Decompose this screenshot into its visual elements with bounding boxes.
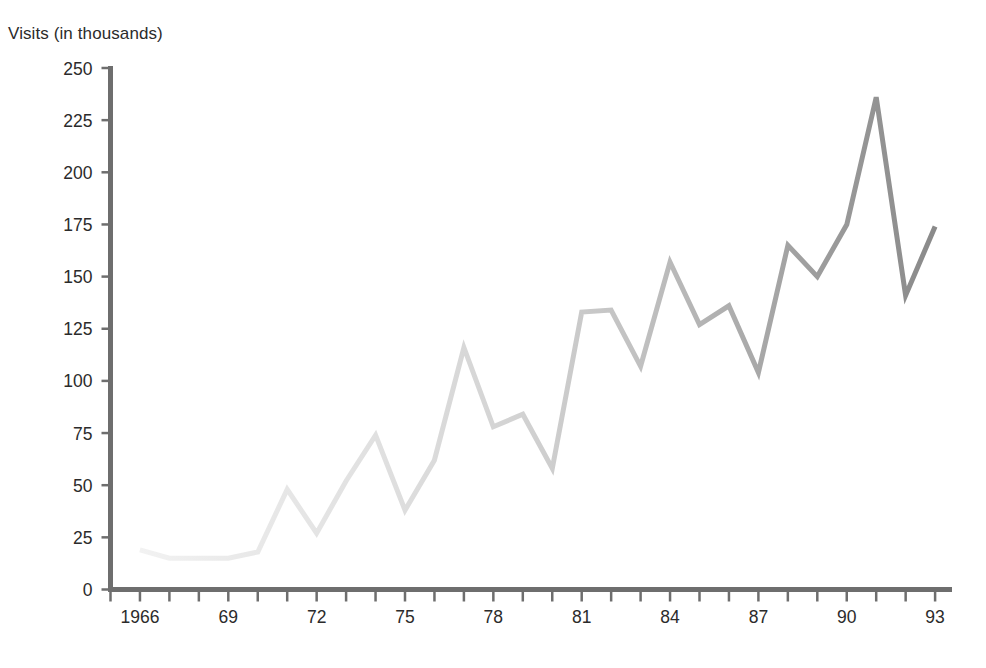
y-axis-tick-label: 25 [73, 528, 92, 548]
y-axis-tick-label: 150 [63, 267, 92, 287]
y-axis-tick-label: 175 [63, 215, 92, 235]
x-axis-ticks [111, 592, 936, 602]
y-axis-tick-label: 225 [63, 111, 92, 131]
y-axis-tick-label: 50 [73, 476, 93, 496]
data-series-line [140, 97, 935, 558]
x-axis-tick-label: 75 [395, 607, 414, 627]
y-axis-tick-label: 0 [83, 580, 93, 600]
line-chart: 0255075100125150175200225250 19666972757… [0, 0, 986, 668]
y-axis-tick-label: 125 [63, 319, 92, 339]
y-axis-tick-label: 200 [63, 163, 92, 183]
x-axis-tick-label: 69 [219, 607, 238, 627]
x-axis-tick-label: 78 [484, 607, 503, 627]
y-axis-tick-label: 100 [63, 371, 92, 391]
chart-container: Visits (in thousands) 025507510012515017… [0, 0, 986, 668]
y-axis-tick-labels: 0255075100125150175200225250 [63, 59, 92, 601]
axes [108, 66, 952, 592]
x-axis-tick-label: 1966 [120, 607, 159, 627]
x-axis-tick-label: 84 [660, 607, 680, 627]
x-axis-tick-label: 93 [925, 607, 944, 627]
x-axis-tick-labels: 1966697275788184879093 [120, 607, 944, 627]
y-axis-tick-label: 250 [63, 59, 92, 79]
y-axis-tick-label: 75 [73, 424, 92, 444]
x-axis-tick-label: 87 [749, 607, 768, 627]
x-axis-tick-label: 81 [572, 607, 591, 627]
x-axis-tick-label: 90 [837, 607, 857, 627]
x-axis-tick-label: 72 [307, 607, 326, 627]
